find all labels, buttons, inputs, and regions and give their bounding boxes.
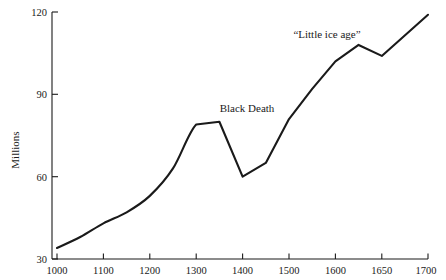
annotation-black-death: Black Death	[220, 102, 275, 114]
x-tick-label-1200: 1200	[139, 265, 160, 276]
y-tick-label-60: 60	[37, 172, 48, 183]
x-tick-label-1000: 1000	[47, 265, 68, 276]
annotation-little-ice-age: “Little ice age”	[293, 28, 360, 40]
chart-page: 120 90 60 30 Millions 1000 1100 1200 130…	[0, 0, 446, 280]
y-tick-label-90: 90	[37, 89, 48, 100]
x-tick-label-1600: 1600	[325, 265, 346, 276]
population-line-chart: 120 90 60 30 Millions 1000 1100 1200 130…	[0, 0, 446, 280]
y-tick-label-120: 120	[31, 7, 47, 18]
x-tick-label-1650: 1650	[371, 265, 392, 276]
x-tick-label-1300: 1300	[186, 265, 207, 276]
y-tick-label-30: 30	[37, 254, 48, 265]
x-tick-label-1700: 1700	[416, 265, 437, 276]
y-axis-title: Millions	[9, 131, 21, 168]
x-tick-label-1400: 1400	[232, 265, 253, 276]
x-tick-label-1100: 1100	[93, 265, 114, 276]
plot-background	[0, 0, 446, 280]
x-tick-label-1500: 1500	[279, 265, 300, 276]
